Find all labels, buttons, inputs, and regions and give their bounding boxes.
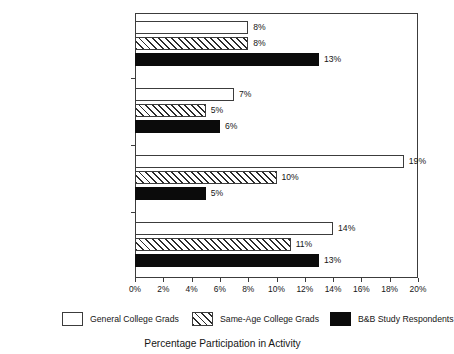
bar-1-3 bbox=[135, 238, 291, 251]
bar-2-3 bbox=[135, 254, 319, 267]
bar-value-label: 19% bbox=[409, 155, 426, 168]
bar-0-2 bbox=[135, 155, 404, 168]
x-tick-label: 20% bbox=[398, 284, 438, 294]
x-tick-mark bbox=[277, 278, 278, 282]
bar-1-1 bbox=[135, 104, 206, 117]
bar-2-0 bbox=[135, 53, 319, 66]
x-tick-mark bbox=[163, 278, 164, 282]
bar-value-label: 14% bbox=[338, 222, 355, 235]
legend-swatch-solid-icon bbox=[330, 312, 351, 326]
x-tick-mark bbox=[192, 278, 193, 282]
legend-label: General College Grads bbox=[90, 314, 179, 325]
bar-0-0 bbox=[135, 21, 248, 34]
bar-value-label: 8% bbox=[253, 21, 265, 34]
bar-1-0 bbox=[135, 37, 248, 50]
x-tick-mark bbox=[220, 278, 221, 282]
x-tick-mark bbox=[305, 278, 306, 282]
bar-value-label: 13% bbox=[324, 53, 341, 66]
bar-value-label: 7% bbox=[239, 88, 251, 101]
bar-0-3 bbox=[135, 222, 333, 235]
bar-value-label: 5% bbox=[211, 104, 223, 117]
y-axis-tick bbox=[131, 145, 135, 146]
x-axis-title: Percentage Participation in Activity bbox=[0, 337, 445, 350]
x-tick-mark bbox=[390, 278, 391, 282]
y-axis-tick bbox=[131, 78, 135, 79]
bar-value-label: 13% bbox=[324, 254, 341, 267]
bar-value-label: 6% bbox=[225, 120, 237, 133]
legend-item-bb-study-respondents: B&B Study Respondents bbox=[330, 309, 454, 329]
legend: General College Grads Same-Age College G… bbox=[62, 309, 422, 329]
legend-swatch-open-icon bbox=[62, 312, 83, 326]
bar-value-label: 10% bbox=[282, 171, 299, 184]
legend-label: Same-Age College Grads bbox=[220, 314, 319, 325]
legend-label: B&B Study Respondents bbox=[358, 314, 454, 325]
bar-value-label: 11% bbox=[296, 238, 313, 251]
bar-2-2 bbox=[135, 187, 206, 200]
bar-1-2 bbox=[135, 171, 277, 184]
legend-item-same-age-college-grads: Same-Age College Grads bbox=[192, 309, 319, 329]
bar-0-1 bbox=[135, 88, 234, 101]
bar-value-label: 8% bbox=[253, 37, 265, 50]
legend-swatch-hatched-icon bbox=[192, 312, 213, 326]
bar-value-label: 5% bbox=[211, 187, 223, 200]
x-tick-mark bbox=[333, 278, 334, 282]
legend-item-general-college-grads: General College Grads bbox=[62, 309, 179, 329]
x-tick-mark bbox=[418, 278, 419, 282]
x-tick-mark bbox=[361, 278, 362, 282]
bar-2-1 bbox=[135, 120, 220, 133]
y-axis-tick bbox=[131, 212, 135, 213]
x-tick-mark bbox=[135, 278, 136, 282]
x-tick-mark bbox=[248, 278, 249, 282]
